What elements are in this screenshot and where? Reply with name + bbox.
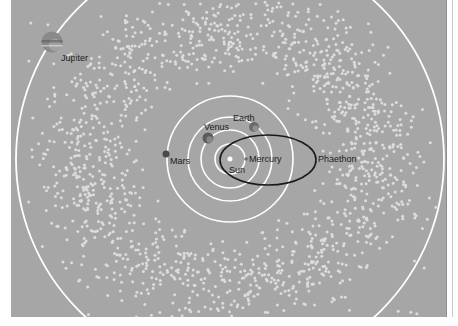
dust-particle bbox=[74, 148, 77, 151]
dust-particle bbox=[240, 59, 243, 62]
dust-particle bbox=[310, 240, 313, 243]
dust-particle bbox=[122, 257, 125, 260]
dust-particle bbox=[46, 148, 49, 151]
dust-particle bbox=[140, 43, 143, 46]
dust-particle bbox=[389, 174, 392, 177]
dust-particle bbox=[421, 108, 424, 111]
dust-particle bbox=[123, 61, 126, 64]
dust-particle bbox=[220, 275, 223, 278]
dust-particle bbox=[254, 2, 257, 5]
dust-particle bbox=[311, 121, 314, 124]
dust-particle bbox=[295, 64, 298, 67]
dust-particle bbox=[253, 295, 256, 298]
mercury-icon bbox=[244, 157, 248, 161]
dust-particle bbox=[350, 104, 353, 107]
dust-particle bbox=[381, 186, 384, 189]
dust-particle bbox=[125, 86, 128, 89]
dust-particle bbox=[330, 275, 333, 278]
dust-particle bbox=[357, 121, 360, 124]
dust-particle bbox=[241, 48, 244, 51]
dust-particle bbox=[48, 105, 51, 108]
dust-particle bbox=[354, 187, 357, 190]
dust-particle bbox=[314, 233, 317, 236]
dust-particle bbox=[150, 314, 153, 317]
dust-particle bbox=[342, 87, 345, 90]
dust-particle bbox=[369, 208, 372, 211]
dust-particle bbox=[103, 186, 106, 189]
dust-particle bbox=[89, 81, 92, 84]
dust-particle bbox=[92, 193, 95, 196]
dust-particle bbox=[228, 310, 231, 313]
dust-particle bbox=[266, 279, 269, 282]
dust-particle bbox=[379, 98, 382, 101]
dust-particle bbox=[342, 18, 345, 21]
dust-particle bbox=[295, 290, 298, 293]
dust-particle bbox=[174, 235, 177, 238]
dust-particle bbox=[83, 144, 86, 147]
dust-particle bbox=[263, 237, 266, 240]
dust-particle bbox=[319, 3, 322, 6]
dust-particle bbox=[376, 165, 379, 168]
dust-particle bbox=[388, 115, 391, 118]
dust-particle bbox=[177, 32, 180, 35]
dust-particle bbox=[297, 69, 300, 72]
venus-planet bbox=[203, 133, 214, 144]
dust-particle bbox=[113, 271, 116, 274]
dust-particle bbox=[165, 59, 168, 62]
dust-particle bbox=[277, 2, 280, 5]
dust-particle bbox=[100, 178, 103, 181]
dust-particle bbox=[375, 97, 378, 100]
dust-particle bbox=[86, 84, 89, 87]
dust-particle bbox=[416, 184, 419, 187]
dust-particle bbox=[157, 257, 160, 260]
dust-particle bbox=[184, 29, 187, 32]
dust-particle bbox=[147, 53, 150, 56]
dust-particle bbox=[169, 60, 172, 63]
dust-particle bbox=[91, 175, 94, 178]
dust-particle bbox=[111, 62, 114, 65]
dust-particle bbox=[314, 217, 317, 220]
dust-particle bbox=[345, 149, 348, 152]
dust-particle bbox=[367, 113, 370, 116]
dust-particle bbox=[348, 278, 351, 281]
dust-particle bbox=[256, 293, 259, 296]
dust-particle bbox=[142, 86, 145, 89]
dust-particle bbox=[287, 107, 290, 110]
dust-particle bbox=[296, 113, 299, 116]
dust-particle bbox=[410, 119, 413, 122]
dust-particle bbox=[140, 31, 143, 34]
dust-particle bbox=[410, 126, 413, 129]
dust-particle bbox=[333, 298, 336, 301]
dust-particle bbox=[337, 19, 340, 22]
dust-particle bbox=[76, 137, 79, 140]
dust-particle bbox=[120, 207, 123, 210]
dust-particle bbox=[362, 116, 365, 119]
dust-particle bbox=[45, 209, 48, 212]
dust-particle bbox=[197, 24, 200, 27]
dust-particle bbox=[316, 260, 319, 263]
dust-particle bbox=[374, 61, 377, 64]
dust-particle bbox=[109, 187, 112, 190]
dust-particle bbox=[349, 169, 352, 172]
dust-particle bbox=[207, 289, 210, 292]
dust-particle bbox=[344, 296, 347, 299]
dust-particle bbox=[286, 14, 289, 17]
mars-label: Mars bbox=[170, 156, 190, 166]
dust-particle bbox=[96, 209, 99, 212]
dust-particle bbox=[277, 279, 280, 282]
dust-particle bbox=[54, 173, 57, 176]
dust-particle bbox=[191, 274, 194, 277]
dust-particle bbox=[301, 228, 304, 231]
dust-particle bbox=[323, 62, 326, 65]
dust-particle bbox=[302, 30, 305, 33]
dust-particle bbox=[363, 222, 366, 225]
dust-particle bbox=[144, 71, 147, 74]
dust-particle bbox=[357, 74, 360, 77]
dust-particle bbox=[251, 58, 254, 61]
dust-particle bbox=[399, 118, 402, 121]
dust-particle bbox=[204, 23, 207, 26]
dust-particle bbox=[354, 66, 357, 69]
mars-icon bbox=[163, 151, 170, 158]
dust-particle bbox=[322, 182, 325, 185]
dust-particle bbox=[323, 265, 326, 268]
